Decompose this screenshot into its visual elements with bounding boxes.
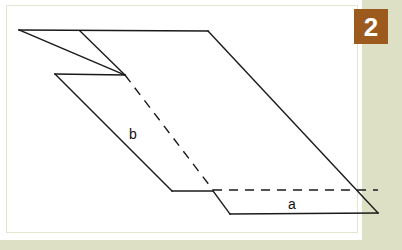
edge-solid-3 <box>55 74 125 75</box>
edge-solid-1 <box>19 30 125 75</box>
edge-solid-2 <box>80 31 125 75</box>
figure-label-b: b <box>129 126 137 142</box>
geometry-figure: ba <box>0 0 402 250</box>
step-number-badge: 2 <box>354 9 388 44</box>
solid-edges <box>19 30 378 214</box>
edge-solid-0 <box>19 30 208 31</box>
figure-page: ba 2 <box>0 0 402 250</box>
figure-labels: ba <box>129 126 296 212</box>
edge-solid-6 <box>55 74 172 191</box>
step-number-label: 2 <box>364 14 378 40</box>
figure-label-a: a <box>288 196 296 212</box>
edge-solid-8 <box>213 191 230 214</box>
edge-solid-4 <box>208 31 378 213</box>
edge-dashed-0 <box>125 75 213 190</box>
edge-solid-5 <box>230 213 378 214</box>
